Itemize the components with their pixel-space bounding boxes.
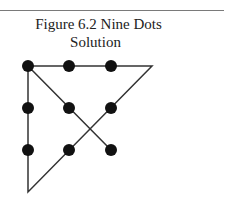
solution-path	[28, 66, 152, 192]
dot-8	[63, 144, 75, 156]
dot-9	[105, 144, 117, 156]
dot-3	[105, 60, 117, 72]
dot-6	[105, 102, 117, 114]
dot-4	[22, 102, 34, 114]
nine-dots-diagram	[0, 0, 229, 217]
dot-1	[22, 60, 34, 72]
dot-5	[63, 102, 75, 114]
dot-7	[22, 144, 34, 156]
dot-2	[63, 60, 75, 72]
